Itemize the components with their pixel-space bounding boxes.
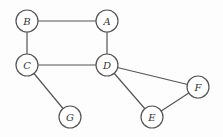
node-label: B [22, 16, 30, 27]
node-g: G [59, 106, 81, 128]
node-label: A [102, 16, 110, 27]
node-e: E [141, 106, 163, 128]
graph-diagram: ABCDEFG [0, 0, 223, 137]
node-label: F [194, 82, 203, 93]
node-d: D [96, 54, 118, 76]
node-label: G [66, 112, 74, 123]
node-a: A [96, 10, 118, 32]
node-c: C [16, 54, 38, 76]
graph-svg: ABCDEFG [0, 0, 223, 137]
nodes-group: ABCDEFG [16, 10, 209, 128]
edge-d-f [107, 65, 198, 87]
node-f: F [187, 76, 209, 98]
node-b: B [16, 10, 38, 32]
node-label: C [23, 60, 31, 71]
node-label: E [147, 112, 156, 123]
node-label: D [102, 60, 111, 71]
